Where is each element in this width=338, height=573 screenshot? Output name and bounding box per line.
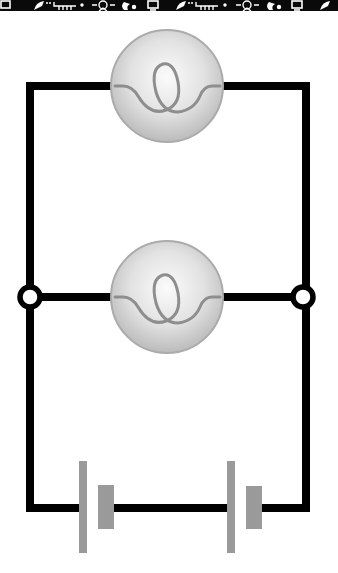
- cell-negative-plate: [246, 486, 262, 529]
- battery-cell-right: [227, 461, 262, 553]
- bulb-top: [111, 30, 223, 142]
- junction-right: [293, 287, 313, 307]
- cell-negative-plate: [98, 485, 114, 529]
- cell-positive-plate: [227, 461, 235, 553]
- bulb-middle: [111, 241, 223, 353]
- battery-cell-left: [79, 461, 114, 553]
- cell-positive-plate: [79, 461, 87, 553]
- circuit-diagram: [0, 0, 338, 573]
- junction-left: [20, 287, 40, 307]
